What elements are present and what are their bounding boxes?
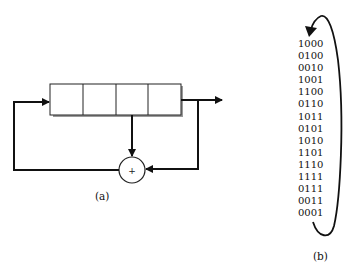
sequence-item: 1000 (298, 38, 323, 50)
sequence-item: 0110 (298, 98, 323, 110)
sequence-item: 0100 (298, 50, 323, 62)
sequence-item: 1001 (298, 74, 323, 86)
cycle-arrowhead-icon (305, 26, 317, 37)
sequence-item: 1111 (298, 171, 323, 183)
sequence-item: 1100 (298, 86, 323, 98)
shift-register (50, 84, 181, 115)
sequence-item: 0001 (298, 207, 323, 219)
sequence-item: 0101 (298, 123, 323, 135)
figure-a-label: (a) (95, 190, 109, 202)
sequence-item: 1010 (298, 135, 323, 147)
sequence-item: 0011 (298, 195, 323, 207)
sequence-item: 1110 (298, 159, 323, 171)
xor-symbol: + (128, 166, 136, 176)
sequence-item: 1011 (298, 111, 323, 123)
sequence-item: 1101 (298, 147, 323, 159)
sequence-item: 0010 (298, 62, 323, 74)
state-sequence: 1000 0100 0010 1001 1100 0110 1011 0101 … (298, 38, 323, 219)
figure-b-label: (b) (313, 250, 328, 262)
sequence-item: 0111 (298, 183, 323, 195)
